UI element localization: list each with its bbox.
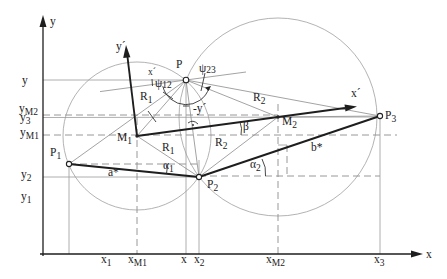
label-p3: P3: [385, 109, 396, 124]
x-axis-arrow-icon: [411, 251, 423, 258]
label-alpha1: α1: [163, 159, 174, 174]
label-r1-upper: R1: [140, 90, 153, 105]
label-b-star: b*: [311, 141, 323, 153]
y-axis-label: y: [50, 15, 56, 28]
label-alpha2: α2: [250, 158, 261, 173]
label-p2: P2: [207, 178, 218, 193]
label-psi23: ψ23: [199, 62, 216, 75]
alpha2-arc: [262, 159, 266, 176]
line-p-xprime-right: [186, 72, 246, 80]
point-m2: [276, 115, 279, 118]
label-psi12: ψ12: [155, 77, 172, 90]
x-tick-x: x: [181, 253, 187, 265]
guide-y3: [43, 117, 380, 118]
y-tick-y: y: [22, 74, 28, 87]
geometry-diagram: y x y yM2 y3 yM1 y2 y1 x1 xM1 x x2 xM2 x…: [0, 0, 447, 279]
x-tick-x1: x1: [101, 253, 112, 268]
label-x-prime: x´: [351, 87, 361, 99]
label-r2-lower: R2: [215, 136, 228, 151]
label-m1: M1: [117, 131, 132, 146]
point-m1: [135, 134, 138, 137]
label-neg-y-prime: -y´: [193, 102, 207, 115]
beta-arc: [240, 122, 242, 135]
point-p: [183, 77, 189, 83]
y-tick-y2: y2: [21, 168, 32, 183]
x-tick-x3: x3: [374, 253, 385, 268]
psi12-mark: [152, 79, 153, 86]
label-x-prime-local: x´: [148, 67, 156, 77]
label-r2-upper: R2: [253, 91, 266, 106]
y-axis-arrow-icon: [40, 15, 47, 27]
label-y-prime: y´: [116, 40, 126, 53]
x-axis-label: x: [426, 248, 432, 260]
y-prime-axis: [128, 57, 138, 136]
y-tick-y1: y1: [21, 190, 32, 205]
label-a-star: a*: [108, 166, 119, 178]
y-tick-ym1: yM1: [20, 126, 39, 141]
x-tick-x2: x2: [194, 253, 205, 268]
label-p: P: [176, 58, 182, 70]
psi-arrow-icon: [205, 86, 211, 91]
x-prime-axis: [137, 108, 345, 136]
chord-a-star: [69, 164, 199, 177]
r1-tick-lower: [148, 111, 156, 122]
point-p1: [66, 161, 71, 166]
point-p3: [377, 113, 382, 118]
point-p2: [196, 174, 201, 179]
right-angle-dot: [192, 124, 194, 126]
right-angle-mark: [188, 121, 198, 124]
x-tick-xm2: xM2: [266, 253, 285, 268]
label-beta: β: [243, 120, 249, 133]
label-p1: P1: [50, 146, 61, 161]
x-tick-xm1: xM1: [128, 253, 147, 268]
psi23-mark: [201, 73, 205, 91]
